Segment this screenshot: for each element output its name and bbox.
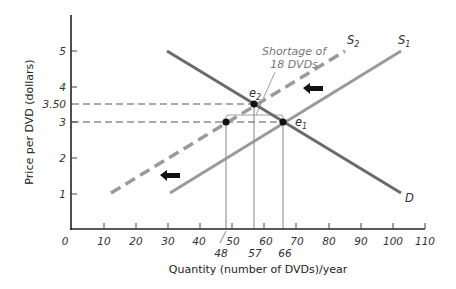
- y-tick-1: 1: [59, 188, 66, 200]
- x-tick-10: 10: [97, 235, 111, 247]
- x-tick-50: 50: [226, 235, 240, 247]
- x-tick-90: 90: [354, 235, 368, 247]
- x-axis-title: Quantity (number of DVDs)/year: [169, 263, 348, 276]
- drop-lines: [220, 104, 283, 243]
- arrow-left-icon: [160, 170, 180, 181]
- x-tick-70: 70: [290, 235, 304, 247]
- y-tick-5: 5: [59, 45, 66, 57]
- x-label-57: 57: [248, 247, 262, 259]
- label-d: D: [405, 191, 414, 205]
- x-tick-60: 60: [259, 235, 273, 247]
- x-label-66: 66: [278, 247, 292, 259]
- y-tick-3-50: 3.50: [43, 98, 67, 110]
- shortage-annotation-line2: 18 DVDs: [270, 58, 318, 71]
- x-tick-80: 80: [322, 235, 336, 247]
- x-tick-20: 20: [129, 235, 143, 247]
- label-e1: e1: [295, 115, 307, 131]
- label-s1: S1: [398, 33, 410, 49]
- x-tick-30: 30: [161, 235, 175, 247]
- y-tick-2: 2: [59, 152, 66, 164]
- x-ticks: [104, 223, 425, 229]
- x-tick-0: 0: [62, 235, 69, 247]
- y-ticks: [71, 51, 77, 194]
- x-tick-100: 100: [383, 235, 403, 247]
- point-e1: [279, 118, 286, 125]
- y-tick-3: 3: [59, 116, 66, 128]
- axes: [70, 15, 425, 230]
- arrow-left-icon: [303, 83, 323, 94]
- label-e2: e2: [249, 86, 261, 102]
- shortage-annotation-line1: Shortage of: [262, 45, 328, 58]
- y-tick-4: 4: [59, 81, 66, 93]
- reference-lines: [72, 104, 283, 122]
- supply-demand-chart: 5 4 3.50 3 2 1 0 10 20 30 40 50 60 70 80…: [0, 0, 456, 289]
- point-q48: [222, 118, 229, 125]
- x-tick-110: 110: [415, 235, 435, 247]
- label-s2: S2: [347, 33, 359, 49]
- y-axis-title: Price per DVD (dollars): [23, 59, 36, 184]
- x-label-48: 48: [214, 247, 228, 259]
- x-tick-40: 40: [192, 235, 206, 247]
